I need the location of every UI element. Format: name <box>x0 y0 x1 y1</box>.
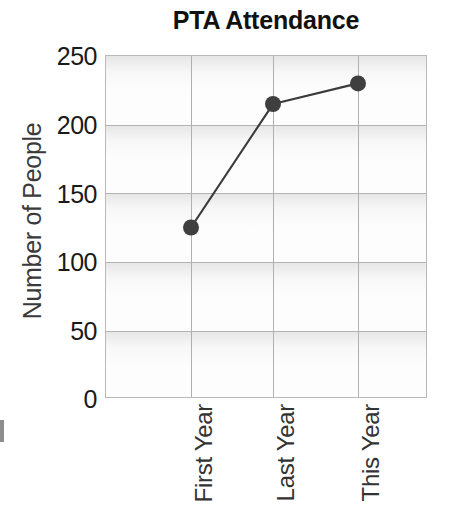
x-tick-label-this-year: This Year <box>358 404 384 524</box>
y-tick-label: 50 <box>5 319 97 344</box>
scan-artifact <box>0 420 4 442</box>
y-axis-tick-labels: 250 200 150 100 50 0 <box>0 0 97 530</box>
x-tick-label-first-year: First Year <box>191 404 217 524</box>
data-point-marker <box>350 75 366 91</box>
plot-area <box>105 55 427 398</box>
y-tick-label: 150 <box>5 182 97 207</box>
y-tick-label: 0 <box>5 387 97 412</box>
data-series-line <box>106 56 427 398</box>
data-point-marker <box>265 96 281 112</box>
x-tick-label-text: This Year <box>358 404 384 524</box>
x-tick-label-text: Last Year <box>273 404 299 524</box>
data-point-marker <box>183 220 199 236</box>
x-tick-label-last-year: Last Year <box>273 404 299 524</box>
y-tick-label: 250 <box>5 44 97 69</box>
chart-title: PTA Attendance <box>105 6 427 35</box>
chart-figure: PTA Attendance Number of People 250 200 … <box>0 0 450 530</box>
y-tick-label: 100 <box>5 250 97 275</box>
series-markers <box>183 75 366 235</box>
y-tick-label: 200 <box>5 113 97 138</box>
x-tick-label-text: First Year <box>191 404 217 524</box>
